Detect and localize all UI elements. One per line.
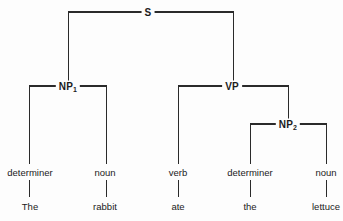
node-np1-label: NP [59,81,73,92]
category-noun-1: noun [94,167,115,178]
node-s-label: S [145,7,152,18]
node-np2-label: NP [279,119,293,130]
word-ate: ate [171,201,184,212]
node-vp-label: VP [225,81,239,92]
node-s: S [142,7,155,18]
tree-edges [0,0,343,221]
node-np1: NP1 [56,81,80,92]
syntax-tree-diagram: S NP1 VP NP2 determiner noun verb determ… [0,0,343,221]
node-np2-subscript: 2 [293,124,297,131]
word-the-2: the [243,201,256,212]
node-np2: NP2 [276,119,300,130]
word-lettuce: lettuce [312,201,340,212]
category-verb: verb [169,167,187,178]
node-np1-subscript: 1 [73,86,77,93]
word-the-1: The [22,201,38,212]
category-noun-2: noun [315,167,336,178]
category-determiner-1: determiner [7,167,52,178]
word-rabbit: rabbit [93,201,117,212]
category-determiner-2: determiner [227,167,272,178]
node-vp: VP [222,81,242,92]
